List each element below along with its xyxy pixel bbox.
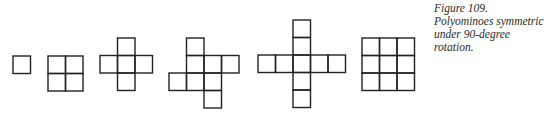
cell [204, 91, 222, 109]
cell [187, 73, 205, 91]
cell [380, 73, 398, 91]
cell [380, 38, 398, 56]
caption-line-1: Figure 109. Polyominoes symmetric [434, 2, 550, 28]
cell [118, 56, 136, 74]
cell [328, 55, 346, 73]
cell [13, 56, 31, 74]
cell [397, 56, 415, 74]
cell [204, 56, 222, 74]
cell [397, 38, 415, 56]
cell [66, 56, 84, 74]
cell [397, 73, 415, 91]
cell [48, 74, 66, 92]
cell [362, 38, 380, 56]
cell [222, 56, 240, 74]
cell [293, 90, 311, 108]
cell [293, 73, 311, 91]
cell [293, 20, 311, 38]
pinwheel-octomino-polyomino [169, 38, 239, 108]
cell [293, 38, 311, 56]
cell [311, 55, 329, 73]
cell [187, 56, 205, 74]
cell [258, 55, 276, 73]
cell [380, 56, 398, 74]
cell [204, 73, 222, 91]
cell [118, 38, 136, 56]
monomino-polyomino [13, 56, 31, 74]
cell [135, 56, 153, 74]
cell [293, 55, 311, 73]
square-nonomino-polyomino [362, 38, 415, 91]
cell [66, 74, 84, 92]
cell [276, 55, 294, 73]
caption-line-2: under 90-degree rotation. [434, 28, 550, 54]
plus-pentomino-polyomino [100, 38, 153, 91]
cell [100, 56, 118, 74]
cell [362, 73, 380, 91]
figure-caption: Figure 109. Polyominoes symmetric under … [434, 2, 550, 54]
cell [48, 56, 66, 74]
cell [118, 73, 136, 91]
cell [169, 73, 187, 91]
square-tetromino-polyomino [48, 56, 83, 91]
cell [187, 38, 205, 56]
cell [362, 56, 380, 74]
long-cross-polyomino [258, 20, 346, 108]
